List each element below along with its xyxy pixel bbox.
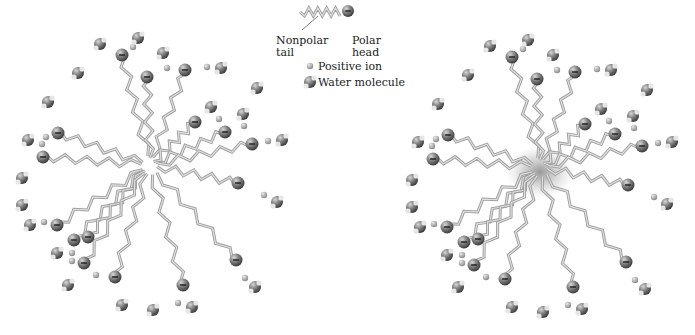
positive-ion-icon — [431, 221, 437, 227]
water-molecule-icon — [440, 248, 453, 261]
micelle-left — [15, 31, 288, 316]
nonpolar-tail — [157, 166, 237, 187]
micelle-diagram — [0, 0, 695, 335]
water-molecule-icon — [303, 75, 316, 88]
water-molecule-icon — [461, 68, 474, 81]
water-molecule-icon — [270, 195, 283, 208]
water-molecule-icon — [411, 135, 424, 148]
positive-ion-icon — [632, 277, 638, 283]
water-molecule-icon — [665, 135, 678, 148]
water-molecule-icon — [536, 305, 549, 318]
water-molecule-icon — [575, 302, 588, 315]
positive-ion-label: Positive ion — [318, 61, 382, 73]
positive-ion-icon — [261, 192, 267, 198]
water-molecule-icon — [250, 81, 263, 94]
water-molecule-icon — [660, 197, 673, 210]
water-molecule-icon — [71, 66, 84, 79]
water-molecule-icon — [546, 48, 559, 61]
positive-ion-icon — [459, 260, 465, 266]
water-molecule-icon — [640, 83, 653, 96]
micelle-right — [405, 33, 678, 318]
water-molecule-icon — [41, 95, 54, 108]
positive-ion-icon — [164, 65, 170, 71]
positive-ion-icon — [242, 275, 248, 281]
positive-ion-icon — [459, 252, 465, 258]
water-molecule-icon — [431, 97, 444, 110]
positive-ion-icon — [41, 219, 47, 225]
water-molecule-icon — [146, 303, 159, 316]
water-molecule-icon — [638, 282, 651, 295]
water-molecule-label: Water molecule — [318, 77, 405, 89]
water-molecule-icon — [248, 280, 261, 293]
water-molecule-icon — [15, 198, 28, 211]
water-molecule-icon — [405, 173, 418, 186]
water-molecule-icon — [156, 46, 169, 59]
positive-ion-icon — [483, 274, 489, 280]
positive-ion-icon — [565, 302, 571, 308]
water-molecule-icon — [521, 33, 534, 46]
water-molecule-icon — [93, 37, 106, 50]
water-molecule-icon — [115, 298, 128, 311]
water-molecule-icon — [413, 220, 426, 233]
positive-ion-icon — [39, 141, 45, 147]
positive-ion-icon — [93, 272, 99, 278]
water-molecule-icon — [594, 102, 607, 115]
positive-ion-icon — [606, 118, 612, 124]
water-molecule-icon — [451, 280, 464, 293]
positive-ion-icon — [241, 123, 247, 129]
positive-ion-icon — [651, 194, 657, 200]
positive-ion-icon — [433, 136, 439, 142]
positive-ion-icon — [216, 116, 222, 122]
positive-ion-icon — [130, 44, 136, 50]
positive-ion-icon — [520, 46, 526, 52]
nonpolar-tail-label: Nonpolar tail — [276, 35, 328, 59]
water-molecule-icon — [185, 300, 198, 313]
water-molecule-icon — [15, 171, 28, 184]
positive-ion-icon — [307, 63, 313, 69]
water-molecule-icon — [275, 133, 288, 146]
positive-ion-icon — [429, 143, 435, 149]
water-molecule-icon — [214, 61, 227, 74]
positive-ion-icon — [265, 138, 271, 144]
positive-ion-icon — [175, 300, 181, 306]
positive-ion-icon — [655, 140, 661, 146]
positive-ion-icon — [631, 125, 637, 131]
water-molecule-icon — [131, 31, 144, 44]
water-molecule-icon — [204, 100, 217, 113]
water-molecule-icon — [604, 63, 617, 76]
water-molecule-icon — [61, 278, 74, 291]
water-molecule-icon — [50, 246, 63, 259]
water-molecule-icon — [405, 200, 418, 213]
positive-ion-icon — [594, 66, 600, 72]
water-molecule-icon — [21, 133, 34, 146]
water-molecule-icon — [505, 300, 518, 313]
water-molecule-icon — [626, 109, 639, 122]
water-molecule-icon — [236, 107, 249, 120]
polar-head-label: Polar head — [352, 35, 381, 59]
water-molecule-icon — [23, 218, 36, 231]
positive-ion-icon — [43, 134, 49, 140]
positive-ion-icon — [204, 64, 210, 70]
positive-ion-icon — [69, 250, 75, 256]
positive-ion-icon — [69, 258, 75, 264]
positive-ion-icon — [554, 67, 560, 73]
nonpolar-tail — [43, 153, 141, 167]
water-molecule-icon — [483, 39, 496, 52]
